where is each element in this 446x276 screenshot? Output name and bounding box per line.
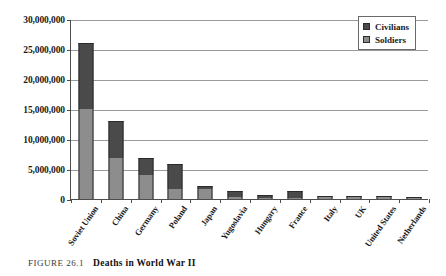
x-axis-labels: Soviet UnionChinaGermanyPolandJapanYugos… bbox=[70, 204, 428, 264]
x-axis-tick bbox=[280, 199, 281, 203]
bar-segment-soldiers bbox=[287, 198, 302, 200]
legend-item-soldiers: Soldiers bbox=[363, 33, 409, 46]
bar-segment-soldiers bbox=[168, 189, 183, 199]
legend-label-soldiers: Soldiers bbox=[375, 35, 406, 45]
bar-slot bbox=[131, 20, 161, 199]
bar-stack[interactable] bbox=[377, 196, 392, 199]
x-axis-tick bbox=[161, 199, 162, 203]
x-axis-tick bbox=[131, 199, 132, 203]
bar-segment-soldiers bbox=[317, 197, 332, 199]
bar-segment-soldiers bbox=[78, 109, 93, 199]
chart-legend: Civilians Soldiers bbox=[358, 16, 416, 50]
y-axis-tick-label: 25,000,000 bbox=[23, 45, 65, 55]
x-axis-category-label: Italy bbox=[321, 204, 339, 223]
x-axis-category-label: Netherlands bbox=[395, 204, 428, 246]
x-axis-tick bbox=[369, 199, 370, 203]
x-axis-tick bbox=[190, 199, 191, 203]
x-axis-category-label: Germany bbox=[132, 204, 160, 238]
legend-label-civilians: Civilians bbox=[375, 22, 409, 32]
bar-segment-soldiers bbox=[407, 198, 422, 199]
figure-container: 05,000,00010,000,00015,000,00020,000,000… bbox=[0, 0, 446, 276]
figure-title: Deaths in World War II bbox=[93, 258, 196, 268]
bar-slot bbox=[220, 20, 250, 199]
bar-stack[interactable] bbox=[287, 191, 302, 199]
x-axis-category-label: China bbox=[109, 204, 130, 228]
figure-number: FIGURE 26.1 bbox=[28, 258, 84, 268]
bar-slot bbox=[161, 20, 191, 199]
bar-segment-civilians bbox=[78, 43, 93, 109]
legend-swatch-soldiers-icon bbox=[363, 36, 370, 43]
bar-stack[interactable] bbox=[78, 43, 93, 199]
bar-stack[interactable] bbox=[317, 196, 332, 199]
bar-segment-civilians bbox=[168, 164, 183, 190]
bar-slot bbox=[280, 20, 310, 199]
bar-segment-soldiers bbox=[138, 175, 153, 199]
bar-segment-soldiers bbox=[108, 158, 123, 199]
bar-segment-civilians bbox=[138, 158, 153, 175]
bar-slot bbox=[101, 20, 131, 199]
x-axis-category-label: Yugoslavia bbox=[219, 204, 249, 242]
bar-segment-soldiers bbox=[228, 197, 243, 199]
x-axis-tick bbox=[220, 199, 221, 203]
x-axis-category-label: Japan bbox=[199, 204, 220, 228]
x-axis-category-label: Hungary bbox=[252, 204, 279, 236]
bar-stack[interactable] bbox=[228, 191, 243, 199]
y-axis-tick-label: 30,000,000 bbox=[23, 15, 65, 25]
x-axis-tick bbox=[71, 199, 72, 203]
x-axis-tick bbox=[340, 199, 341, 203]
x-axis-tick bbox=[250, 199, 251, 203]
y-axis-tick-label: 0 bbox=[60, 195, 65, 205]
bar-stack[interactable] bbox=[168, 164, 183, 199]
x-axis-tick bbox=[429, 199, 430, 203]
bar-segment-soldiers bbox=[257, 198, 272, 199]
x-axis-tick bbox=[310, 199, 311, 203]
bar-segment-soldiers bbox=[198, 189, 213, 199]
bar-segment-civilians bbox=[108, 121, 123, 158]
x-axis-tick bbox=[101, 199, 102, 203]
bar-stack[interactable] bbox=[347, 196, 362, 199]
bar-slot bbox=[250, 20, 280, 199]
bar-slot bbox=[310, 20, 340, 199]
bar-stack[interactable] bbox=[138, 158, 153, 199]
y-axis-tick-label: 5,000,000 bbox=[28, 165, 65, 175]
legend-swatch-civilians-icon bbox=[363, 23, 370, 30]
y-axis-tick-label: 20,000,000 bbox=[23, 75, 65, 85]
bar-stack[interactable] bbox=[257, 195, 272, 199]
bar-segment-soldiers bbox=[347, 197, 362, 199]
bar-slot bbox=[190, 20, 220, 199]
x-axis-category-label: Soviet Union bbox=[66, 204, 100, 247]
y-axis-tick-label: 15,000,000 bbox=[23, 105, 65, 115]
bar-slot bbox=[71, 20, 101, 199]
y-axis-tick-label: 10,000,000 bbox=[23, 135, 65, 145]
legend-item-civilians: Civilians bbox=[363, 20, 409, 33]
x-axis-category-label: Poland bbox=[167, 204, 190, 230]
x-axis-category-label: France bbox=[286, 204, 309, 230]
x-axis-tick bbox=[399, 199, 400, 203]
bar-stack[interactable] bbox=[407, 197, 422, 200]
x-axis-category-label: UK bbox=[353, 204, 368, 220]
bar-stack[interactable] bbox=[198, 186, 213, 199]
x-axis-category-label: United States bbox=[363, 204, 399, 249]
figure-caption: FIGURE 26.1 Deaths in World War II bbox=[28, 258, 196, 268]
bar-segment-soldiers bbox=[377, 197, 392, 199]
bar-stack[interactable] bbox=[108, 121, 123, 199]
